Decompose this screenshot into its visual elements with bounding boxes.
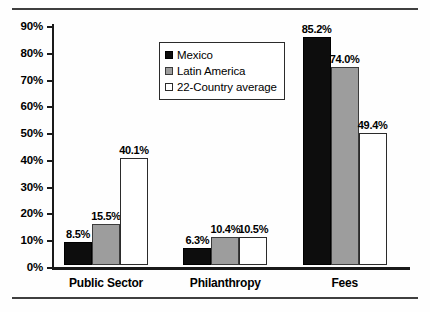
y-axis-line	[52, 24, 54, 269]
x-axis-baseline	[52, 267, 410, 270]
bar-value-label: 8.5%	[66, 228, 90, 240]
y-tick-mark	[47, 267, 52, 269]
y-tick-label: 10%	[21, 234, 43, 246]
y-tick-label: 0%	[27, 261, 43, 273]
bar[interactable]: 6.3%	[183, 248, 211, 265]
y-tick-mark	[47, 26, 52, 28]
chart-legend: Mexico Latin America 22-Country average	[159, 42, 285, 100]
y-tick-label: 90%	[21, 20, 43, 32]
bar-group-fees: 85.2%74.0%49.4%	[303, 24, 387, 265]
y-tick-mark	[47, 133, 52, 135]
bar-group-public-sector: 8.5%15.5%40.1%	[64, 24, 148, 265]
bar-value-label: 6.3%	[185, 234, 209, 246]
y-tick-mark	[47, 213, 52, 215]
legend-item-22-country-average: 22-Country average	[165, 79, 277, 95]
y-tick-label: 20%	[21, 207, 43, 219]
legend-label-22-country-average: 22-Country average	[177, 81, 277, 93]
legend-swatch-icon-mexico	[165, 51, 173, 59]
bar[interactable]: 40.1%	[120, 158, 148, 265]
y-tick-label: 40%	[21, 154, 43, 166]
bar[interactable]: 8.5%	[64, 242, 92, 265]
y-tick-mark	[47, 240, 52, 242]
legend-item-latin-america: Latin America	[165, 63, 277, 79]
bar[interactable]: 10.5%	[239, 237, 267, 265]
legend-swatch-icon-latin-america	[165, 67, 173, 75]
category-label-philanthropy: Philanthropy	[183, 276, 267, 290]
y-tick-mark	[47, 53, 52, 55]
top-divider-rule	[12, 8, 418, 10]
bar[interactable]: 85.2%	[303, 37, 331, 265]
legend-swatch-icon-22-country-average	[165, 83, 173, 91]
y-tick-label: 50%	[21, 127, 43, 139]
bar-value-label: 10.5%	[238, 223, 268, 235]
y-tick-label: 70%	[21, 74, 43, 86]
bar-value-label: 74.0%	[330, 53, 360, 65]
plot-area: 0%10%20%30%40%50%60%70%80%90% 8.5%15.5%4…	[52, 24, 410, 268]
bar[interactable]: 10.4%	[211, 237, 239, 265]
bar-value-label: 10.4%	[210, 223, 240, 235]
y-tick-mark	[47, 187, 52, 189]
bar[interactable]: 15.5%	[92, 224, 120, 266]
bottom-divider-rule	[12, 297, 418, 299]
y-tick-label: 30%	[21, 181, 43, 193]
y-tick-label: 60%	[21, 100, 43, 112]
legend-label-mexico: Mexico	[177, 49, 213, 61]
bar[interactable]: 49.4%	[359, 133, 387, 265]
legend-item-mexico: Mexico	[165, 47, 277, 63]
y-tick-label: 80%	[21, 47, 43, 59]
bar-value-label: 85.2%	[302, 23, 332, 35]
category-label-fees: Fees	[303, 276, 387, 290]
bar-value-label: 40.1%	[119, 144, 149, 156]
bar[interactable]: 74.0%	[331, 67, 359, 265]
legend-label-latin-america: Latin America	[177, 65, 245, 77]
category-label-public-sector: Public Sector	[64, 276, 148, 290]
bar-value-label: 15.5%	[91, 210, 121, 222]
bar-value-label: 49.4%	[358, 119, 388, 131]
y-tick-mark	[47, 106, 52, 108]
y-tick-mark	[47, 160, 52, 162]
y-tick-mark	[47, 80, 52, 82]
chart-figure: 0%10%20%30%40%50%60%70%80%90% 8.5%15.5%4…	[0, 0, 430, 312]
